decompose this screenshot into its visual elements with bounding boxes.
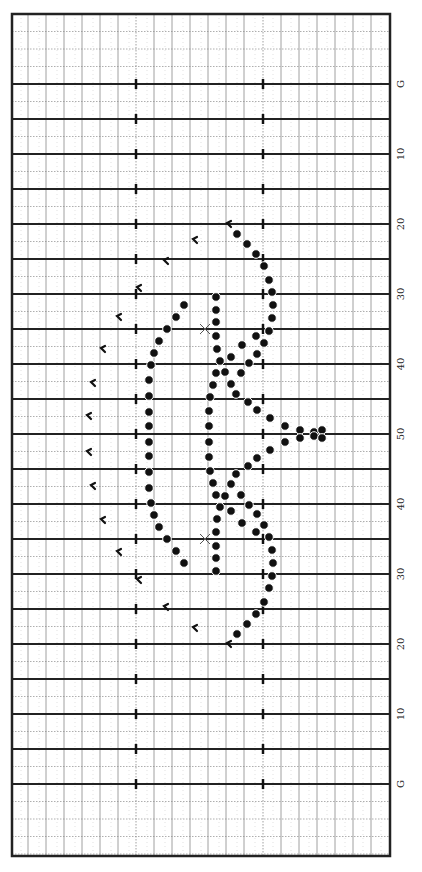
performer-dot [163,325,172,334]
performer-dot [145,484,154,493]
performer-dot [155,337,164,346]
performer-dot [172,313,181,322]
performer-dot [244,398,253,407]
performer-dot [318,434,327,443]
performer-dot [318,426,327,435]
flag-marker-icon [101,517,105,523]
drill-chart-field: G102030405040302010G [0,0,422,872]
performer-dot [233,230,242,239]
performer-dot [145,422,154,431]
performer-dot [212,567,221,576]
performer-dot [147,499,156,508]
flag-marker-icon [91,380,95,386]
performer-dot [252,250,261,259]
flag-marker-icon [137,577,141,583]
performer-dot [281,422,290,431]
flag-marker-icon [193,625,197,631]
performer-dot [245,501,254,510]
performer-dot [260,521,269,530]
performer-dot [268,288,277,297]
performer-dot [206,393,215,402]
performer-dot [266,414,275,423]
performer-dot [205,453,214,462]
flag-marker-icon [87,449,91,455]
performer-dot [212,318,221,327]
performer-dot [260,598,269,607]
performer-dot [212,369,221,378]
performer-dot [252,610,261,619]
performer-dot [212,528,221,537]
performer-dot [232,390,241,399]
performer-dot [233,630,242,639]
performer-dot [147,361,156,370]
performer-dot [238,519,247,528]
performer-dot [212,491,221,500]
performer-dot [205,407,214,416]
performer-dot [205,422,214,431]
yard-line-labels: G102030405040302010G [395,80,406,788]
performer-dot [209,381,218,390]
performer-dot [268,572,277,581]
performer-dot [216,503,225,512]
performer-dot [244,462,253,471]
yard-lines [12,84,390,784]
performer-dot [150,511,159,520]
performer-dot [221,492,230,501]
performer-dot [209,479,218,488]
performer-dot [227,380,236,389]
performer-dot [155,523,164,532]
flag-marker-icon [164,258,168,264]
performer-dot [268,546,277,555]
yard-label: 30 [395,288,406,301]
performer-dot [296,426,305,435]
performer-dot [212,306,221,315]
performer-dot [252,332,261,341]
performer-dot [253,406,262,415]
yard-label: 30 [395,568,406,581]
flag-marker-icon [193,237,197,243]
performer-dot [253,454,262,463]
performer-dot [216,357,225,366]
performer-dot [227,507,236,516]
yard-label: 20 [395,638,406,651]
performer-dot [145,408,154,417]
yard-label: G [395,780,406,788]
performer-dot [237,491,246,500]
yard-label: 20 [395,218,406,231]
yard-label: 40 [395,498,406,511]
performer-dot [172,547,181,556]
performer-dot [269,301,278,310]
performer-dot [206,467,215,476]
performer-dot [243,240,252,249]
performer-dot [212,554,221,563]
flag-marker-icon [101,346,105,352]
performer-dot [205,438,214,447]
performer-dot [265,533,274,542]
performer-dot [227,480,236,489]
performer-dot [253,510,262,519]
performer-dot [266,446,275,455]
yard-label: 10 [395,708,406,721]
performer-dot [296,434,305,443]
yard-label: 50 [395,428,406,441]
performer-dot [212,332,221,341]
performer-dot [145,468,154,477]
performer-dot [245,359,254,368]
performer-dot [145,392,154,401]
performer-dot [212,542,221,551]
performer-dot [150,349,159,358]
performer-dot [243,620,252,629]
performer-dot [145,452,154,461]
performer-dot [265,276,274,285]
performer-dot [221,368,230,377]
flag-marker-icon [137,285,141,291]
performer-dot [281,438,290,447]
performer-dot [163,535,172,544]
performer-dot [180,301,189,310]
performer-dot [237,369,246,378]
performer-dot [260,262,269,271]
performer-dot [253,350,262,359]
performer-dot [265,327,274,336]
performer-dot [310,432,319,441]
yard-label: G [395,80,406,88]
